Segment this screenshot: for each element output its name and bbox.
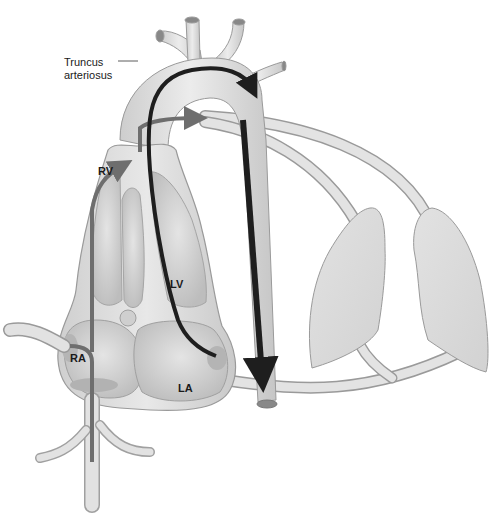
lv-label: LV — [170, 278, 183, 290]
pulmonary-vein-opening — [207, 346, 227, 370]
rv-label: RV — [98, 165, 113, 177]
la-label: LA — [178, 382, 193, 394]
valve — [120, 310, 136, 326]
truncus-label-line2: arteriosus — [64, 69, 112, 82]
truncus-label-line1: Truncus — [64, 56, 112, 69]
right-lung — [309, 208, 385, 368]
left-lung — [414, 208, 488, 372]
truncus-label: Truncus arteriosus — [64, 56, 112, 82]
descending-aorta-end — [257, 400, 277, 408]
ra-label: RA — [70, 352, 86, 364]
